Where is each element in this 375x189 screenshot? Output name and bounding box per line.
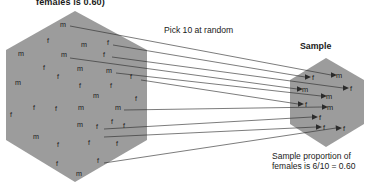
- sample-proportion-caption: Sample proportion of females is 6/10 = 0…: [272, 152, 355, 172]
- figure-title: females is 0.60): [36, 0, 105, 8]
- population-member: m: [78, 103, 84, 112]
- population-member: f: [33, 103, 35, 112]
- population-member: f: [88, 138, 90, 147]
- population-member: f: [55, 104, 57, 113]
- sample-member: m: [336, 71, 342, 80]
- population-member: f: [47, 36, 49, 45]
- population-member: m: [33, 132, 39, 141]
- population-member: m: [76, 169, 82, 178]
- population-member: m: [60, 20, 66, 29]
- population-member: f: [107, 38, 109, 47]
- population-member: m: [106, 66, 112, 75]
- population-member: m: [93, 91, 99, 100]
- sample-heading: Sample: [300, 41, 331, 51]
- population-member: f: [56, 159, 58, 168]
- population-member: f: [57, 140, 59, 149]
- population-member: f: [130, 72, 132, 81]
- pick-at-random-label: Pick 10 at random: [164, 26, 233, 36]
- population-member: f: [116, 139, 118, 148]
- population-member: f: [135, 94, 137, 103]
- population-member: f: [103, 50, 105, 59]
- sample-member: m: [302, 85, 308, 94]
- population-member: m: [81, 40, 87, 49]
- population-member: f: [10, 110, 12, 119]
- sample-member: m: [327, 103, 333, 112]
- population-member: f: [43, 63, 45, 72]
- population-member: m: [15, 78, 21, 87]
- population-member: m: [77, 120, 83, 129]
- population-member: f: [96, 122, 98, 131]
- population-member: f: [97, 156, 99, 165]
- figure-container: mfmfmmffmmmffffmfffmmfmfffmfffffm mffmmf…: [0, 0, 375, 189]
- population-member: m: [77, 64, 83, 73]
- population-member: f: [79, 81, 81, 90]
- population-member: f: [110, 81, 112, 90]
- population-member: f: [57, 72, 59, 81]
- caption-line-2: females is 6/10 = 0.60: [272, 162, 355, 172]
- population-member: f: [123, 121, 125, 130]
- sampling-arrow: [141, 80, 298, 104]
- population-member: m: [18, 49, 24, 58]
- population-member: m: [115, 103, 121, 112]
- sample-member: m: [326, 92, 332, 101]
- population-member: f: [111, 117, 113, 126]
- population-member: m: [61, 50, 67, 59]
